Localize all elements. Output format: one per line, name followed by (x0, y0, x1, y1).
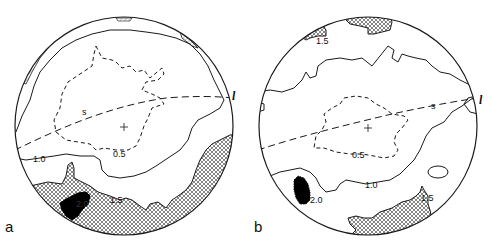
contour-label-2.0-a: 2.0 (76, 199, 89, 209)
contour-label-0.5-b: 0.5 (352, 150, 365, 160)
great-circle-label-a: s (82, 107, 87, 117)
contour-label-1.5-top-b: 1.5 (316, 36, 329, 46)
contour-label-1.5-a: 1.5 (110, 195, 123, 205)
lineation-label-a: l (232, 89, 236, 103)
contour-fill-2.0 (294, 176, 310, 204)
contour-label-1.5-bottom-b: 1.5 (421, 193, 434, 203)
center-cross-icon (364, 124, 372, 132)
panel-b: s l 0.5 1.0 1.5 1.5 2.0 b (254, 16, 483, 249)
contour-label-1.0-a: 1.0 (33, 154, 46, 164)
contour-1.0-ellipse (428, 166, 448, 178)
contour-1.0-upper (258, 46, 472, 92)
contour-0.5 (314, 96, 408, 158)
center-cross-icon (120, 123, 128, 131)
lineation-label-b: l (479, 93, 483, 107)
panel-a: s l 0.5 1.0 1.5 2.0 a (0, 17, 240, 249)
contour-label-1.0-b: 1.0 (365, 180, 378, 190)
contour-label-0.5-a: 0.5 (113, 149, 126, 159)
panel-label-b: b (254, 218, 262, 235)
contour-0.5 (54, 46, 164, 150)
contour-fill-1.5-bottom (346, 186, 450, 249)
great-circle-label-b: s (431, 101, 436, 111)
contour-label-2.0-b: 2.0 (310, 195, 323, 205)
stereonet-figure: s l 0.5 1.0 1.5 2.0 a (0, 0, 493, 249)
rim-hatch-top (116, 18, 132, 21)
panel-label-a: a (5, 218, 14, 235)
contour-1.0-lower (262, 96, 476, 192)
